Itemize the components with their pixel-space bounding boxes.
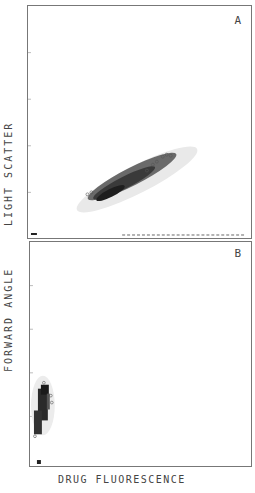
y-ticks bbox=[28, 53, 31, 193]
y-axis-label-forward-angle: FORWARD ANGLE bbox=[3, 268, 14, 372]
x-axis-label: DRUG FLUORESCENCE bbox=[58, 474, 186, 485]
debris-points bbox=[31, 233, 37, 235]
panel-letter-b: B bbox=[234, 247, 241, 260]
debris-points bbox=[37, 460, 41, 464]
panel-letter-a: A bbox=[234, 14, 241, 27]
scatter-panel-b: B bbox=[29, 241, 252, 467]
scatter-plot-b bbox=[30, 242, 251, 466]
scatter-plot-a bbox=[28, 6, 251, 238]
y-axis-label-light-scatter: LIGHT SCATTER bbox=[3, 122, 14, 226]
scatter-panel-a: A bbox=[27, 5, 252, 239]
